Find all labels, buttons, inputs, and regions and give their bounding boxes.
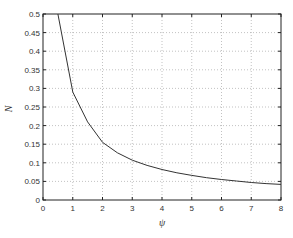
x-tick-label: 8 <box>279 204 284 213</box>
x-axis-label: ψ <box>159 217 166 228</box>
x-tick-label: 6 <box>219 204 224 213</box>
y-tick-label: 0.15 <box>24 140 40 149</box>
y-tick-label: 0.45 <box>24 29 40 38</box>
y-tick-labels: 00.050.10.150.20.250.30.350.40.450.5 <box>24 10 40 205</box>
data-series-line <box>58 14 281 184</box>
y-tick-label: 0.3 <box>29 84 41 93</box>
y-tick-label: 0.35 <box>24 66 40 75</box>
x-tick-labels: 012345678 <box>41 204 284 213</box>
x-tick-label: 1 <box>71 204 76 213</box>
y-tick-label: 0.4 <box>29 47 41 56</box>
y-tick-label: 0.05 <box>24 177 40 186</box>
y-tick-label: 0.1 <box>29 159 41 168</box>
x-tick-label: 5 <box>190 204 195 213</box>
x-tick-label: 4 <box>160 204 165 213</box>
x-tick-label: 7 <box>249 204 254 213</box>
y-tick-label: 0.25 <box>24 103 40 112</box>
x-tick-label: 2 <box>100 204 105 213</box>
y-axis-label: N <box>3 104 14 113</box>
line-chart: 012345678 00.050.10.150.20.250.30.350.40… <box>0 0 293 238</box>
x-tick-label: 0 <box>41 204 46 213</box>
y-tick-label: 0.5 <box>29 10 41 19</box>
y-tick-label: 0.2 <box>29 122 41 131</box>
grid-lines <box>43 14 281 200</box>
x-tick-label: 3 <box>130 204 135 213</box>
y-tick-label: 0 <box>36 196 41 205</box>
